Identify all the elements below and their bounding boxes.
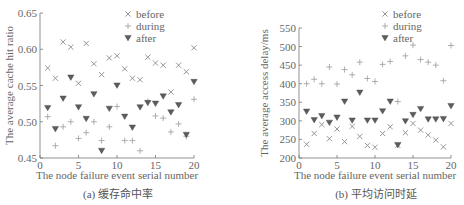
marker-plus-icon xyxy=(153,113,159,119)
legend-label-after: after xyxy=(136,32,156,44)
marker-x-icon xyxy=(114,53,119,58)
marker-x-icon xyxy=(122,66,127,71)
marker-plus-icon xyxy=(402,53,408,59)
series-during xyxy=(304,42,454,104)
marker-x-icon xyxy=(107,55,112,60)
marker-x-icon xyxy=(372,145,377,150)
y-axis-label: The average cache hit ratio xyxy=(3,25,15,145)
marker-plus-icon xyxy=(45,114,51,120)
marker-plus-icon xyxy=(395,99,401,105)
marker-x-icon xyxy=(45,66,50,71)
marker-x-icon xyxy=(53,76,58,81)
marker-plus-icon xyxy=(334,81,340,87)
marker-plus-icon xyxy=(191,96,197,102)
marker-plus-icon xyxy=(91,119,97,125)
marker-x-icon xyxy=(153,60,158,65)
marker-plus-icon xyxy=(357,59,363,65)
marker-triangle-down-icon xyxy=(440,116,446,121)
marker-x-icon xyxy=(84,41,89,46)
marker-triangle-down-icon xyxy=(106,106,112,111)
marker-plus-icon xyxy=(433,62,439,68)
y-tick-label: 350 xyxy=(280,96,297,108)
marker-x-icon xyxy=(125,11,130,16)
marker-x-icon xyxy=(161,63,166,68)
marker-x-icon xyxy=(441,144,446,149)
marker-plus-icon xyxy=(68,119,74,125)
y-tick-label: 0.55 xyxy=(18,80,38,92)
marker-triangle-down-icon xyxy=(91,92,97,97)
marker-x-icon xyxy=(312,131,317,136)
marker-triangle-down-icon xyxy=(319,113,325,118)
marker-x-icon xyxy=(342,139,347,144)
marker-x-icon xyxy=(138,77,143,82)
marker-x-icon xyxy=(327,136,332,141)
marker-x-icon xyxy=(365,143,370,148)
marker-triangle-down-icon xyxy=(311,118,317,123)
series-during xyxy=(45,96,197,153)
marker-x-icon xyxy=(410,121,415,126)
marker-triangle-down-icon xyxy=(45,105,51,110)
marker-triangle-down-icon xyxy=(168,110,174,115)
marker-x-icon xyxy=(130,76,135,81)
y-tick-label: 0.65 xyxy=(18,7,38,19)
marker-x-icon xyxy=(145,55,150,60)
x-axis-label: The node failure event serial number xyxy=(294,169,457,181)
y-tick-label: 400 xyxy=(280,78,297,90)
marker-triangle-down-icon xyxy=(364,118,370,123)
marker-triangle-down-icon xyxy=(83,116,89,121)
marker-x-icon xyxy=(61,39,66,44)
marker-triangle-down-icon xyxy=(326,120,332,125)
marker-triangle-down-icon xyxy=(114,83,120,88)
marker-triangle-down-icon xyxy=(341,99,347,104)
marker-plus-icon xyxy=(304,81,310,87)
marker-x-icon xyxy=(176,63,181,68)
marker-x-icon xyxy=(304,142,309,147)
marker-triangle-down-icon xyxy=(303,109,309,114)
marker-triangle-down-icon xyxy=(125,35,131,40)
marker-plus-icon xyxy=(425,59,431,65)
marker-x-icon xyxy=(191,45,196,50)
marker-plus-icon xyxy=(372,78,378,84)
marker-x-icon xyxy=(433,138,438,143)
marker-triangle-down-icon xyxy=(122,114,128,119)
y-axis-label: The average access delay/ms xyxy=(258,29,270,156)
marker-triangle-down-icon xyxy=(60,96,66,101)
marker-triangle-down-icon xyxy=(68,75,74,80)
marker-triangle-down-icon xyxy=(129,125,135,130)
marker-x-icon xyxy=(334,126,339,131)
marker-plus-icon xyxy=(311,76,317,82)
marker-triangle-down-icon xyxy=(137,105,143,110)
marker-x-icon xyxy=(382,11,387,16)
series-before xyxy=(45,39,197,94)
marker-plus-icon xyxy=(176,121,182,127)
marker-triangle-down-icon xyxy=(410,112,416,117)
y-tick-label: 300 xyxy=(280,115,297,127)
marker-plus-icon xyxy=(160,115,166,121)
marker-x-icon xyxy=(426,132,431,137)
chart-caption: (b) 平均访问时延 xyxy=(335,188,417,201)
marker-plus-icon xyxy=(106,124,112,130)
marker-triangle-down-icon xyxy=(152,101,158,106)
legend-label-during: during xyxy=(393,20,422,32)
marker-triangle-down-icon xyxy=(98,148,104,153)
marker-plus-icon xyxy=(168,129,174,135)
marker-x-icon xyxy=(403,130,408,135)
marker-triangle-down-icon xyxy=(433,117,439,122)
marker-triangle-down-icon xyxy=(402,119,408,124)
y-tick-label: 200 xyxy=(280,152,297,164)
y-tick-label: 0.50 xyxy=(18,116,38,128)
chart-cache-hit-ratio: 051015200.450.500.550.600.65The node fai… xyxy=(3,7,200,201)
chart-access-delay: 05101520200250300350400450500550The node… xyxy=(258,8,457,201)
y-tick-label: 0.45 xyxy=(18,152,38,164)
marker-plus-icon xyxy=(114,104,120,110)
legend-label-before: before xyxy=(393,8,421,20)
marker-x-icon xyxy=(184,69,189,74)
marker-x-icon xyxy=(357,134,362,139)
marker-plus-icon xyxy=(122,138,128,144)
marker-x-icon xyxy=(91,61,96,66)
marker-triangle-down-icon xyxy=(75,105,81,110)
marker-plus-icon xyxy=(380,61,386,67)
marker-triangle-down-icon xyxy=(379,109,385,114)
marker-triangle-down-icon xyxy=(175,103,181,108)
legend: beforeduringafter xyxy=(125,8,165,44)
